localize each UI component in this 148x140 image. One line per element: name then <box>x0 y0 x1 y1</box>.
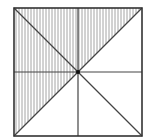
center-point <box>76 70 80 74</box>
square-diagram <box>0 0 148 140</box>
